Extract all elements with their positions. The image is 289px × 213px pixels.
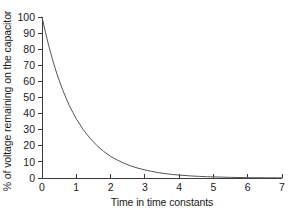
data-series-group <box>42 17 282 178</box>
y-tick-label: 10 <box>23 156 35 168</box>
chart-figure: % of voltage remaining on the capacitor … <box>0 0 289 213</box>
x-tick-label: 3 <box>142 181 148 193</box>
plot-area: 0102030405060708090100 01234567 <box>0 0 289 213</box>
y-tick-label: 90 <box>23 27 35 39</box>
y-tick-label: 60 <box>23 75 35 87</box>
x-tick-label: 7 <box>279 181 285 193</box>
y-tick-label: 100 <box>17 11 35 23</box>
x-tick-label: 6 <box>245 181 251 193</box>
x-tick-label: 0 <box>39 181 45 193</box>
y-tick-label: 20 <box>23 139 35 151</box>
data-series-line <box>42 17 282 178</box>
y-tick-label: 70 <box>23 59 35 71</box>
y-tick-label: 50 <box>23 91 35 103</box>
x-tick-label: 1 <box>73 181 79 193</box>
x-axis-ticks: 01234567 <box>39 174 285 193</box>
y-tick-label: 0 <box>29 172 35 184</box>
y-tick-label: 80 <box>23 43 35 55</box>
y-axis-ticks: 0102030405060708090100 <box>17 11 42 184</box>
x-tick-label: 2 <box>108 181 114 193</box>
y-tick-label: 30 <box>23 123 35 135</box>
y-tick-label: 40 <box>23 107 35 119</box>
x-tick-label: 4 <box>176 181 182 193</box>
x-tick-label: 5 <box>211 181 217 193</box>
